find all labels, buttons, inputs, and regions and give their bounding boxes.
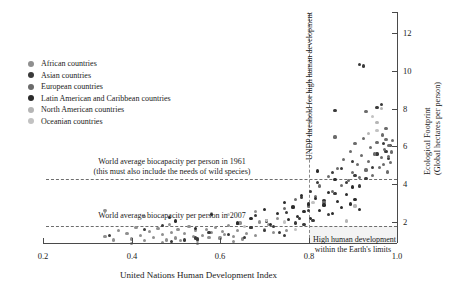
data-point bbox=[333, 192, 336, 195]
biocapacity-2007-annotation: World average biocapacity per person in … bbox=[72, 211, 272, 221]
data-point bbox=[327, 191, 330, 194]
data-point bbox=[322, 201, 325, 204]
data-point bbox=[367, 132, 370, 135]
data-point bbox=[349, 202, 352, 205]
data-point bbox=[276, 212, 279, 215]
y-tick-label: 6 bbox=[403, 141, 407, 151]
data-point bbox=[327, 175, 330, 178]
data-point bbox=[358, 63, 361, 66]
legend-item-4: North American countries bbox=[28, 104, 171, 116]
data-point bbox=[375, 129, 378, 132]
y-tick-label: 8 bbox=[403, 104, 407, 114]
data-point bbox=[112, 238, 115, 241]
data-point bbox=[236, 229, 239, 232]
y-axis-line bbox=[397, 12, 398, 243]
data-point bbox=[276, 217, 279, 220]
data-point bbox=[375, 121, 378, 124]
x-axis-title: United Nations Human Development Index bbox=[120, 270, 277, 280]
data-point bbox=[194, 227, 197, 230]
data-point bbox=[322, 203, 325, 206]
data-point bbox=[152, 236, 155, 239]
data-point bbox=[238, 221, 241, 224]
data-point bbox=[333, 135, 336, 138]
data-point bbox=[227, 233, 230, 236]
legend-item-label: African countries bbox=[41, 59, 97, 68]
biocapacity-1961-line2: (this must also include the needs of wil… bbox=[94, 167, 251, 176]
data-point bbox=[358, 208, 361, 211]
data-point bbox=[207, 231, 210, 234]
biocapacity-1961-line1: World average biocapacity per person in … bbox=[98, 157, 245, 166]
data-point bbox=[236, 222, 239, 225]
data-point bbox=[300, 196, 303, 199]
data-point bbox=[311, 219, 314, 222]
data-point bbox=[318, 184, 321, 187]
data-point bbox=[243, 236, 246, 239]
data-point bbox=[364, 110, 367, 113]
legend-marker-icon bbox=[28, 107, 34, 113]
sustainable-quadrant-annotation: High human development within the Earth'… bbox=[313, 235, 393, 255]
legend-item-5: Oceanian countries bbox=[28, 116, 171, 128]
data-point bbox=[263, 228, 266, 231]
data-point bbox=[201, 234, 204, 237]
data-point bbox=[383, 148, 386, 151]
data-point bbox=[356, 163, 359, 166]
data-point bbox=[263, 229, 266, 232]
legend-marker-icon bbox=[28, 118, 34, 124]
data-point bbox=[390, 150, 393, 153]
limits-line1: High human development bbox=[313, 235, 396, 244]
data-point bbox=[272, 231, 275, 234]
data-point bbox=[360, 154, 363, 157]
data-point bbox=[358, 184, 361, 187]
biocapacity-1961-annotation: World average biocapacity per person in … bbox=[72, 157, 272, 177]
data-point bbox=[143, 239, 146, 242]
undp-threshold-annotation: UNDP threshold for high human developmen… bbox=[305, 12, 314, 160]
data-point bbox=[194, 236, 197, 239]
data-point bbox=[210, 231, 213, 234]
legend: African countriesAsian countriesEuropean… bbox=[28, 58, 171, 127]
data-point bbox=[311, 201, 314, 204]
data-point bbox=[375, 141, 378, 144]
limits-line2: within the Earth's limits bbox=[315, 245, 391, 254]
data-point bbox=[143, 228, 146, 231]
x-tick bbox=[43, 238, 44, 243]
data-point bbox=[340, 184, 343, 187]
legend-item-label: North American countries bbox=[41, 105, 124, 114]
data-point bbox=[316, 181, 319, 184]
y-axis-title: Ecological Footprint (Global hectares pe… bbox=[423, 82, 444, 175]
data-point bbox=[283, 220, 286, 223]
y-tick bbox=[392, 33, 397, 34]
x-tick-label: 0.2 bbox=[35, 251, 51, 261]
legend-marker-icon bbox=[28, 72, 34, 78]
x-tick bbox=[309, 238, 310, 243]
data-point bbox=[353, 204, 356, 207]
x-tick-label: 0.4 bbox=[124, 251, 140, 261]
data-point bbox=[387, 157, 390, 160]
y-axis-title-line2: (Global hectares per person) bbox=[433, 82, 442, 175]
y-tick bbox=[392, 184, 397, 185]
data-point bbox=[378, 166, 381, 169]
y-tick-label: 12 bbox=[403, 28, 412, 38]
y-tick bbox=[392, 109, 397, 110]
data-point bbox=[364, 168, 367, 171]
data-point bbox=[342, 158, 345, 161]
data-point bbox=[345, 181, 348, 184]
data-point bbox=[349, 150, 352, 153]
x-tick bbox=[132, 238, 133, 243]
legend-item-1: Asian countries bbox=[28, 70, 171, 82]
data-point bbox=[380, 156, 383, 159]
data-point bbox=[294, 221, 297, 224]
x-tick bbox=[397, 238, 398, 243]
data-point bbox=[283, 207, 286, 210]
data-point bbox=[314, 195, 317, 198]
legend-marker-icon bbox=[28, 95, 34, 101]
y-axis-end-cap bbox=[392, 12, 397, 13]
data-point bbox=[221, 230, 224, 233]
x-tick-label: 0.6 bbox=[212, 251, 228, 261]
data-point bbox=[389, 161, 392, 164]
data-point bbox=[176, 228, 179, 231]
data-point bbox=[367, 160, 370, 163]
legend-item-label: Oceanian countries bbox=[41, 117, 103, 126]
legend-item-label: Latin American and Caribbean countries bbox=[41, 94, 171, 103]
data-point bbox=[382, 163, 385, 166]
data-point bbox=[316, 169, 319, 172]
